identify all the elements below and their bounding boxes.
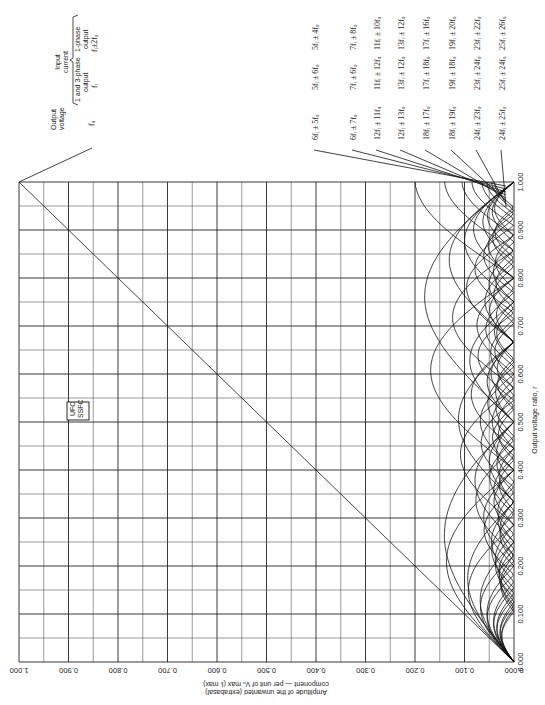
amplitude-tick: 0.900 bbox=[59, 666, 78, 675]
amplitude-tick-label: 0.100 bbox=[455, 666, 474, 675]
amplitude-tick-label: 0.200 bbox=[406, 666, 425, 675]
series-label: 12fᵢ ± 11fₒ bbox=[373, 106, 382, 140]
ratio-tick-label: 0.700 bbox=[516, 317, 525, 336]
amplitude-tick: 0.800 bbox=[109, 666, 128, 675]
ratio-tick-label: 0.400 bbox=[516, 461, 525, 480]
series-label-text: 25fᵢ ± 26fₒ bbox=[498, 16, 507, 50]
ratio-tick-label: 0.000 bbox=[516, 653, 525, 672]
single-phase-header: 1-phase output fᵢ±2fₒ bbox=[74, 27, 99, 52]
series-label-text: 7fᵢ ± 6fₒ bbox=[349, 64, 358, 90]
header-output-voltage: Output voltage bbox=[50, 107, 66, 130]
header-input-current: Input current bbox=[54, 51, 69, 73]
series-label: 5fᵢ ± 4fₒ bbox=[311, 24, 320, 50]
series-label-text: 13fᵢ ± 12fₒ bbox=[397, 56, 406, 90]
ratio-tick: 0.700 bbox=[516, 317, 525, 336]
series-label-text: 5fᵢ ± 6fₒ bbox=[311, 64, 320, 90]
series-label: 5fᵢ ± 6fₒ bbox=[311, 64, 320, 90]
single-phase-freq: fᵢ±2fₒ bbox=[90, 34, 99, 52]
ratio-tick: 0.200 bbox=[516, 557, 525, 576]
amplitude-tick-label: 0.400 bbox=[307, 666, 326, 675]
series-label: 12fᵢ ± 13fₒ bbox=[397, 106, 406, 140]
y-axis-title-line2: component — per unit of Vₒ max (Iᵢ max) bbox=[203, 680, 329, 688]
amplitude-tick: 0.700 bbox=[158, 666, 177, 675]
amplitude-tick: 0.100 bbox=[455, 666, 474, 675]
amplitude-tick-label: 0.800 bbox=[109, 666, 128, 675]
amplitude-tick: 0.400 bbox=[307, 666, 326, 675]
series-label-text: 19fᵢ ± 20fₒ bbox=[448, 16, 457, 50]
x-axis-title: Output voltage ratio, r bbox=[531, 386, 539, 454]
ratio-tick-label: 0.900 bbox=[516, 221, 525, 240]
single-phase-label-1: 1-phase bbox=[74, 27, 82, 52]
ratio-tick-label: 0.600 bbox=[516, 365, 525, 384]
series-label-text: 7fᵢ ± 8fₒ bbox=[349, 24, 358, 50]
series-label-text: 24fᵢ ± 23fₒ bbox=[473, 106, 482, 140]
input-current-label-1: Input bbox=[54, 54, 62, 70]
series-label-text: 17fᵢ ± 16fₒ bbox=[422, 16, 431, 50]
three-phase-freq: fᵢ bbox=[90, 83, 99, 88]
amplitude-tick-label: 0.300 bbox=[356, 666, 375, 675]
ratio-tick-label: 0.800 bbox=[516, 269, 525, 288]
series-label: 23fᵢ ± 24fₒ bbox=[473, 56, 482, 90]
series-label-text: 13fᵢ ± 12fₒ bbox=[397, 16, 406, 50]
series-leader-line bbox=[425, 150, 506, 198]
fo-label: fₒ bbox=[87, 120, 96, 126]
series-label: 6fᵢ ± 7fₒ bbox=[349, 114, 358, 140]
amplitude-axis-ticks: 0.0000.1000.2000.3000.4000.5000.6000.700… bbox=[10, 666, 524, 675]
ratio-tick-label: 0.200 bbox=[516, 557, 525, 576]
amplitude-tick: 0.600 bbox=[208, 666, 227, 675]
y-axis-title: Amplitude of the unwanted (extrabasal) c… bbox=[203, 680, 329, 696]
legend-text: UFC SSFC bbox=[69, 399, 84, 418]
fo-label-group: fₒ bbox=[87, 120, 96, 126]
fo-leader-line bbox=[19, 148, 92, 182]
output-voltage-label-2: voltage bbox=[58, 107, 66, 130]
amplitude-tick: 0.200 bbox=[406, 666, 425, 675]
amplitude-tick-label: 1.000 bbox=[10, 666, 29, 675]
x-axis-title-text: Output voltage ratio, r bbox=[531, 386, 539, 454]
series-label: 25fᵢ ± 26fₒ bbox=[498, 16, 507, 50]
series-label-text: 18fᵢ ± 17fₒ bbox=[422, 106, 431, 140]
series-label: 17fᵢ ± 16fₒ bbox=[422, 16, 431, 50]
series-label: 13fᵢ ± 12fₒ bbox=[397, 56, 406, 90]
series-label: 7fᵢ ± 6fₒ bbox=[349, 64, 358, 90]
ratio-tick: 1.000 bbox=[516, 173, 525, 192]
series-label: 19fᵢ ± 18fₒ bbox=[448, 56, 457, 90]
series-label: 19fᵢ ± 20fₒ bbox=[448, 16, 457, 50]
series-label-text: 5fᵢ ± 4fₒ bbox=[311, 24, 320, 50]
harmonic-amplitude-chart: 0.0000.1000.2000.3000.4000.5000.6000.700… bbox=[0, 0, 545, 705]
series-label: 24fᵢ ± 25fₒ bbox=[498, 106, 507, 140]
series-label: 23fᵢ ± 22fₒ bbox=[473, 16, 482, 50]
y-axis-title-line1: Amplitude of the unwanted (extrabasal) bbox=[205, 688, 327, 696]
legend-ssfc: SSFC bbox=[77, 399, 84, 418]
ratio-tick-label: 1.000 bbox=[516, 173, 525, 192]
series-label: 6fᵢ ± 5fₒ bbox=[311, 114, 320, 140]
series-label-text: 12fᵢ ± 13fₒ bbox=[397, 106, 406, 140]
series-label-text: 17fᵢ ± 18fₒ bbox=[422, 56, 431, 90]
series-label: 7fᵢ ± 8fₒ bbox=[349, 24, 358, 50]
amplitude-tick: 0.500 bbox=[257, 666, 276, 675]
amplitude-tick-label: 0.900 bbox=[59, 666, 78, 675]
output-voltage-label-1: Output bbox=[50, 109, 58, 130]
series-label-text: 18fᵢ ± 19fₒ bbox=[448, 106, 457, 140]
series-label: 11fᵢ ± 10fₒ bbox=[373, 16, 382, 50]
single-phase-label-2: output bbox=[82, 29, 90, 49]
series-leader-line bbox=[376, 150, 506, 192]
amplitude-tick-label: 0.500 bbox=[257, 666, 276, 675]
series-label-text: 19fᵢ ± 18fₒ bbox=[448, 56, 457, 90]
ratio-tick: 0.800 bbox=[516, 269, 525, 288]
ratio-tick-label: 0.500 bbox=[516, 413, 525, 432]
series-labels: 6fᵢ ± 5fₒ5fᵢ ± 6fₒ5fᵢ ± 4fₒ6fᵢ ± 7fₒ7fᵢ … bbox=[311, 16, 507, 207]
series-label-text: 6fᵢ ± 7fₒ bbox=[349, 114, 358, 140]
amplitude-tick: 0.300 bbox=[356, 666, 375, 675]
ratio-axis-ticks: 0.0000.1000.2000.3000.4000.5000.6000.700… bbox=[516, 173, 525, 672]
amplitude-tick-label: 0.700 bbox=[158, 666, 177, 675]
series-label-text: 24fᵢ ± 25fₒ bbox=[498, 106, 507, 140]
ratio-tick: 0.900 bbox=[516, 221, 525, 240]
ratio-tick: 0.400 bbox=[516, 461, 525, 480]
ratio-tick-label: 0.300 bbox=[516, 509, 525, 528]
series-label-text: 11fᵢ ± 10fₒ bbox=[373, 16, 382, 50]
series-label-text: 23fᵢ ± 24fₒ bbox=[473, 56, 482, 90]
ratio-tick: 0.300 bbox=[516, 509, 525, 528]
series-leader-line bbox=[352, 150, 506, 189]
ratio-tick: 0.100 bbox=[516, 605, 525, 624]
ratio-tick: 0.500 bbox=[516, 413, 525, 432]
